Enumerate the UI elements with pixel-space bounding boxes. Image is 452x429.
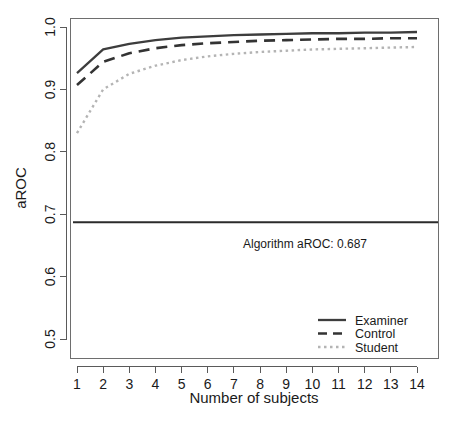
x-tick-label: 3 — [125, 376, 133, 392]
y-tick-label: 0.6 — [42, 267, 58, 287]
x-tick-label: 1 — [73, 376, 81, 392]
data-series-group — [77, 32, 417, 133]
x-tick-label: 11 — [331, 376, 346, 392]
x-tick-label: 5 — [178, 376, 186, 392]
chart-container: 0.50.60.70.80.91.0 1234567891011121314 A… — [0, 0, 452, 429]
series-line-student — [77, 47, 417, 133]
algorithm-aroc-annotation: Algorithm aROC: 0.687 — [243, 237, 367, 251]
y-tick-label: 1.0 — [42, 17, 58, 37]
x-tick-label: 4 — [152, 376, 160, 392]
y-tick-label: 0.5 — [42, 329, 58, 349]
plot-area-border — [71, 19, 439, 359]
y-axis-ticks — [60, 27, 67, 339]
x-tick-label: 2 — [99, 376, 107, 392]
legend-label-control: Control — [355, 327, 395, 341]
x-tick-label: 13 — [383, 376, 399, 392]
y-tick-label: 0.9 — [42, 79, 58, 99]
y-tick-label: 0.7 — [42, 204, 58, 224]
x-axis-ticks — [77, 367, 417, 374]
x-tick-label: 14 — [409, 376, 425, 392]
aroc-line-chart: 0.50.60.70.80.91.0 1234567891011121314 A… — [0, 0, 452, 429]
legend-label-examiner: Examiner — [355, 314, 408, 328]
y-tick-label: 0.8 — [42, 142, 58, 162]
legend-label-student: Student — [355, 341, 399, 355]
x-axis-title: Number of subjects — [189, 389, 318, 406]
x-tick-label: 12 — [357, 376, 373, 392]
y-axis-tick-labels: 0.50.60.70.80.91.0 — [42, 17, 58, 349]
chart-legend: ExaminerControlStudent — [318, 314, 408, 355]
y-axis-title: aROC — [12, 167, 29, 209]
